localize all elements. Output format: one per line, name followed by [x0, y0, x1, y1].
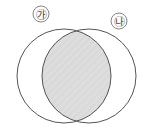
left-label-text: ㉮ — [36, 9, 47, 22]
venn-diagram-figure: ㉮ ㉯ — [0, 0, 152, 131]
left-set-label: ㉮ — [33, 6, 49, 22]
right-set-label: ㉯ — [111, 13, 127, 29]
right-label-text: ㉯ — [114, 16, 125, 29]
venn-diagram-canvas: ㉮ ㉯ — [0, 0, 152, 131]
